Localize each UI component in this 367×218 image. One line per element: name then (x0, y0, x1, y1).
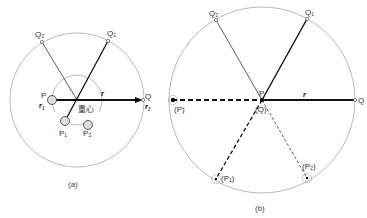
caption-a: (a) (68, 180, 78, 189)
dashed-line-p2-b (262, 100, 307, 178)
label-center-of-mass: 重心 (78, 104, 94, 114)
label-q1-b: Q₁ (305, 8, 314, 17)
label-q-b: Q (358, 96, 364, 105)
label-r-b: r (303, 90, 307, 99)
label-q2-b: Q₂ (209, 9, 218, 18)
line-q1-b (262, 19, 307, 100)
point-q1-b (305, 17, 308, 20)
label-r-a: r (101, 89, 105, 98)
label-r1-a: r₁ (39, 101, 45, 110)
diagram-canvas: Q₂ Q₁ Q r₂ P r₁ r 重心 P₁ P₂ (a) (0, 0, 367, 218)
label-p1-image-b: (P₁) (221, 174, 235, 183)
label-q1-a: Q₁ (107, 29, 116, 38)
point-p-b (260, 98, 264, 102)
label-r2-a: r₂ (145, 102, 151, 111)
point-q1-a (106, 39, 109, 42)
line-q2-a (42, 42, 77, 100)
figure-a: Q₂ Q₁ Q r₂ P r₁ r 重心 P₁ P₂ (a) (10, 29, 151, 189)
label-q-a: Q (145, 92, 151, 101)
figure-b: Q₂ Q₁ Q P r (P) (Q) (P₁) (P₂) (b) (169, 7, 365, 213)
label-p2-image-b: (P₂) (302, 162, 316, 171)
line-q2-b (216, 20, 262, 100)
particle-p1-a (61, 117, 70, 126)
inner-arc-a-bottom (70, 124, 84, 125)
point-q2-b (214, 18, 217, 21)
label-q2-a: Q₂ (35, 30, 44, 39)
label-p2-a: P₂ (83, 129, 91, 138)
label-q-image-b: (Q) (255, 105, 267, 114)
point-q2-a (40, 40, 43, 43)
label-p1-a: P₁ (59, 129, 67, 138)
caption-b: (b) (255, 204, 265, 213)
point-q-b (353, 98, 356, 101)
inner-arc-a (52, 75, 102, 112)
particle-p-a (48, 96, 57, 105)
label-p-image-b: (P) (174, 105, 185, 114)
label-p-a: P (41, 91, 46, 100)
label-p-b: P (259, 89, 264, 98)
